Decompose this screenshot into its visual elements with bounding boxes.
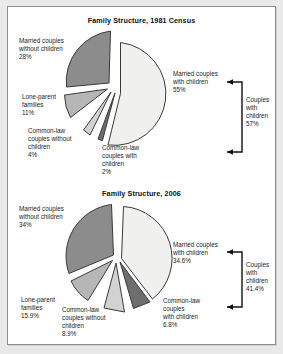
label-line: Married couples	[173, 70, 218, 78]
label-line: with	[246, 269, 269, 277]
label-line: couples with	[102, 152, 139, 160]
label-line: Married couples	[19, 205, 64, 213]
label-value: 4%	[28, 151, 71, 159]
chart-panel-2006: Family Structure, 2006 Married couples w…	[8, 183, 275, 344]
label-line: Common-law	[28, 127, 71, 135]
label-line: children	[246, 277, 269, 285]
chart-title-1981: Family Structure, 1981 Census	[8, 16, 275, 25]
label-common-law-without-children-2006: Common-law couples without children 8.9%	[62, 306, 105, 338]
arrow-head-icon	[227, 79, 233, 85]
label-value: 57%	[246, 120, 269, 128]
slice-married-with-children-1981[interactable]	[108, 43, 166, 146]
label-lone-parent-2006: Lone-parent families 15.9%	[21, 296, 55, 320]
label-value: 55%	[173, 86, 218, 94]
label-line: with children	[173, 249, 218, 257]
label-line: Common-law	[102, 144, 139, 152]
label-couples-with-children-total-1981: Couples with children 57%	[246, 96, 269, 128]
arrow-head-icon	[227, 304, 233, 310]
label-value: 28%	[19, 53, 64, 61]
label-line: couples without	[62, 314, 105, 322]
label-line: Common-law	[62, 306, 105, 314]
label-line: couples	[163, 305, 200, 313]
label-line: Common-law	[163, 297, 200, 305]
label-line: Couples	[246, 261, 269, 269]
label-line: children	[102, 160, 139, 168]
chart-panel-1981: Family Structure, 1981 Census Married co…	[8, 7, 275, 183]
pie-chart-1981	[64, 29, 174, 154]
arrow-head-icon	[227, 149, 233, 155]
label-value: 34.6%	[173, 257, 218, 265]
figure-page: Family Structure, 1981 Census Married co…	[7, 6, 276, 345]
pie-chart-2006	[66, 201, 178, 321]
label-married-without-children-2006: Married couples without children 34%	[19, 205, 64, 229]
label-value: 11%	[22, 109, 56, 117]
label-value: 41.4%	[246, 285, 269, 293]
label-common-law-without-children-1981: Common-law couples without children 4%	[28, 127, 71, 159]
arrow-head-icon	[227, 249, 233, 255]
label-line: with children	[163, 313, 200, 321]
label-line: Married couples	[173, 241, 218, 249]
label-line: Lone-parent	[22, 93, 56, 101]
label-value: 34%	[19, 221, 64, 229]
bracket-connector-1981	[220, 79, 246, 155]
label-line: without children	[19, 45, 64, 53]
label-couples-with-children-total-2006: Couples with children 41.4%	[246, 261, 269, 293]
label-line: with children	[173, 78, 218, 86]
chart-title-2006: Family Structure, 2006	[8, 189, 275, 198]
label-line: families	[22, 101, 56, 109]
bracket-connector-2006	[220, 249, 246, 310]
label-line: without children	[19, 213, 64, 221]
label-married-with-children-1981: Married couples with children 55%	[173, 70, 218, 94]
label-line: children	[28, 143, 71, 151]
label-lone-parent-1981: Lone-parent families 11%	[22, 93, 56, 117]
label-line: families	[21, 304, 55, 312]
label-line: children	[246, 112, 269, 120]
label-value: 8.9%	[62, 330, 105, 338]
label-common-law-with-children-1981: Common-law couples with children 2%	[102, 144, 139, 176]
label-married-without-children-1981: Married couples without children 28%	[19, 37, 64, 61]
label-line: Married couples	[19, 37, 64, 45]
label-value: 6.8%	[163, 321, 200, 329]
label-married-with-children-2006: Married couples with children 34.6%	[173, 241, 218, 265]
label-value: 2%	[102, 168, 139, 176]
label-line: Lone-parent	[21, 296, 55, 304]
label-line: children	[62, 322, 105, 330]
label-line: with	[246, 104, 269, 112]
slice-common-law-without-children-2006[interactable]	[104, 263, 125, 312]
slice-married-without-children-1981[interactable]	[66, 31, 110, 87]
label-line: couples without	[28, 135, 71, 143]
label-line: Couples	[246, 96, 269, 104]
label-value: 15.9%	[21, 312, 55, 320]
label-common-law-with-children-2006: Common-law couples with children 6.8%	[163, 297, 200, 329]
